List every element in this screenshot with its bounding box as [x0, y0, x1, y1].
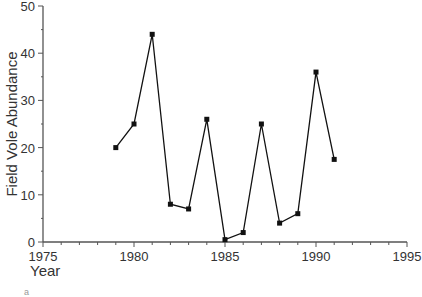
data-point-marker [295, 211, 300, 216]
y-tick-label: 20 [21, 141, 35, 156]
data-point-marker [259, 122, 264, 127]
data-point-marker [241, 230, 246, 235]
data-series [113, 32, 336, 242]
tick-labels: 0102030405019751980198519901995 [21, 0, 422, 264]
series-line [116, 34, 334, 239]
line-chart: 0102030405019751980198519901995 Year Fie… [0, 0, 422, 297]
y-tick-label: 0 [28, 235, 35, 250]
data-point-marker [150, 32, 155, 37]
axes [43, 6, 407, 242]
cropped-text-fragment: a [24, 287, 29, 297]
y-tick-label: 50 [21, 0, 35, 14]
x-tick-label: 1985 [211, 249, 240, 264]
data-point-marker [223, 237, 228, 242]
ticks [38, 6, 407, 247]
x-tick-label: 1990 [302, 249, 331, 264]
data-point-marker [168, 202, 173, 207]
x-tick-label: 1980 [120, 249, 149, 264]
data-point-marker [277, 221, 282, 226]
data-point-marker [132, 122, 137, 127]
data-point-marker [204, 117, 209, 122]
y-tick-label: 30 [21, 93, 35, 108]
y-axis-title: Field Vole Abundance [3, 51, 20, 196]
data-point-marker [113, 145, 118, 150]
y-tick-label: 10 [21, 188, 35, 203]
x-axis-title: Year [30, 262, 60, 279]
data-point-marker [314, 70, 319, 75]
data-point-marker [186, 206, 191, 211]
data-point-marker [332, 157, 337, 162]
y-tick-label: 40 [21, 46, 35, 61]
x-tick-label: 1995 [393, 249, 422, 264]
